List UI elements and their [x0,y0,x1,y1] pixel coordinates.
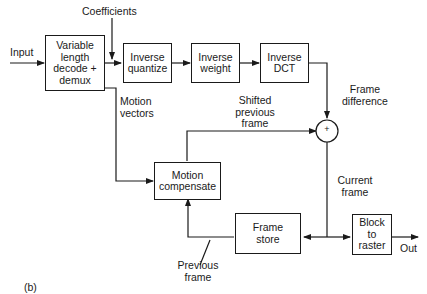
inverse-quantize-block: Inverse quantize [123,43,172,83]
decoder-block-diagram: Variable length decode + demux Inverse q… [0,0,427,294]
adder-plus-symbol: + [321,124,333,136]
previous-frame-label: Previous frame [168,260,228,283]
block-to-raster-block: Block to raster [352,214,392,255]
motion-vectors-label: Motion vectors [120,96,154,119]
current-frame-label: Current frame [330,175,380,198]
coefficients-label: Coefficients [82,6,137,18]
input-label: Input [10,47,33,59]
variable-length-decode-demux-block: Variable length decode + demux [45,35,105,91]
figure-caption: (b) [24,282,37,294]
frame-store-block: Frame store [235,213,301,254]
motion-compensate-block: Motion compensate [154,162,221,200]
inverse-weight-block: Inverse weight [191,43,240,83]
out-label: Out [400,243,417,255]
inverse-dct-block: Inverse DCT [260,43,309,83]
shifted-previous-frame-label: Shifted previous frame [225,95,285,130]
frame-difference-label: Frame difference [330,84,400,107]
